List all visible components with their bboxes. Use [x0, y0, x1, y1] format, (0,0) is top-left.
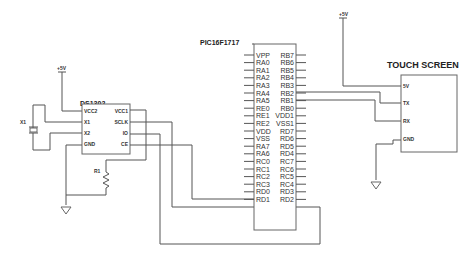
- rtc-pin-vcc1: VCC1: [115, 108, 129, 114]
- mcu-pin-rb5: RB5: [280, 67, 294, 74]
- rtc-pin-x2: X2: [84, 130, 90, 136]
- mcu-pin-vdd1: VDD1: [275, 112, 294, 119]
- rtc-pin-sclk: SCLK: [114, 119, 128, 125]
- rtc-pin-vcc2: VCC2: [84, 108, 98, 114]
- crystal-x1: X1: [20, 105, 82, 150]
- rtc-pin-gnd: GND: [84, 141, 96, 147]
- wire-tx: [296, 92, 401, 103]
- mcu-pin-vss1: VSS1: [276, 120, 294, 127]
- mcu-pin-rb3: RB3: [280, 82, 294, 89]
- mcu-pin-rd4: RD4: [280, 150, 294, 157]
- touch-ground: [371, 140, 401, 189]
- mcu-pin-vss: VSS: [256, 135, 270, 142]
- pic-chip: PIC16F1717 VPPRA0RA1RA2RA3RA4RA5RE0RE1RE…: [200, 39, 306, 230]
- schematic: +5V DS1302 VCC2 X1 X2 GND VCC1 SCLK IO C…: [0, 0, 474, 258]
- ds1302-chip: DS1302 VCC2 X1 X2 GND VCC1 SCLK IO CE: [80, 100, 130, 154]
- mcu-pin-rb0: RB0: [280, 105, 294, 112]
- mcu-pin-rb4: RB4: [280, 74, 294, 81]
- touch-pin-tx: TX: [403, 100, 410, 106]
- mcu-pin-rd2: RD2: [280, 196, 294, 203]
- mcu-pin-ra3: RA3: [256, 82, 270, 89]
- power-label-touch: +5V: [339, 11, 349, 17]
- rtc-pin-x1: X1: [84, 119, 90, 125]
- mcu-pin-re0: RE0: [256, 105, 270, 112]
- pic-left-pins: VPPRA0RA1RA2RA3RA4RA5RE0RE1RE2VDDVSSRA7R…: [244, 52, 271, 203]
- mcu-pin-vdd: VDD: [256, 128, 271, 135]
- touch-screen-module: TOUCH SCREEN 5V TX RX GND: [387, 60, 459, 152]
- mcu-pin-ra7: RA7: [256, 143, 270, 150]
- mcu-pin-rd1: RD1: [256, 196, 270, 203]
- mcu-pin-rb6: RB6: [280, 59, 294, 66]
- mcu-pin-rc4: RC4: [280, 181, 294, 188]
- mcu-pin-ra0: RA0: [256, 59, 270, 66]
- power-label-rtc: +5V: [57, 65, 67, 71]
- mcu-pin-rb7: RB7: [280, 52, 294, 59]
- mcu-pin-rc0: RC0: [256, 158, 270, 165]
- mcu-pin-rd3: RD3: [280, 188, 294, 195]
- mcu-pin-rc2: RC2: [256, 173, 270, 180]
- mcu-pin-vpp: VPP: [256, 52, 270, 59]
- power-rail-rtc: +5V: [57, 65, 82, 111]
- mcu-pin-rd0: RD0: [256, 188, 270, 195]
- resistor-label: R1: [94, 168, 101, 174]
- mcu-pin-re1: RE1: [256, 112, 270, 119]
- touch-pin-gnd: GND: [403, 136, 415, 142]
- mcu-pin-rc5: RC5: [280, 173, 294, 180]
- rtc-pin-ce: CE: [121, 141, 129, 147]
- mcu-pin-re2: RE2: [256, 120, 270, 127]
- mcu-pin-rd6: RD6: [280, 135, 294, 142]
- mcu-pin-rc1: RC1: [256, 166, 270, 173]
- mcu-pin-rc3: RC3: [256, 181, 270, 188]
- mcu-pin-ra5: RA5: [256, 97, 270, 104]
- mcu-pin-ra4: RA4: [256, 90, 270, 97]
- mcu-pin-rb1: RB1: [280, 97, 294, 104]
- crystal-label: X1: [20, 119, 26, 125]
- mcu-pin-rc7: RC7: [280, 158, 294, 165]
- mcu-pin-rd5: RD5: [280, 143, 294, 150]
- rtc-ground: [61, 145, 106, 214]
- pic-right-pins: RB7RB6RB5RB4RB3RB2RB1RB0VDD1VSS1RD7RD6RD…: [275, 52, 306, 203]
- mcu-pin-rd7: RD7: [280, 128, 294, 135]
- mcu-name: PIC16F1717: [200, 39, 239, 46]
- mcu-pin-ra6: RA6: [256, 150, 270, 157]
- touch-pin-5v: 5V: [403, 83, 410, 89]
- touch-pin-rx: RX: [403, 118, 411, 124]
- mcu-pin-ra1: RA1: [256, 67, 270, 74]
- wire-ce: [130, 145, 254, 199]
- touch-power: +5V: [339, 11, 401, 86]
- rtc-pin-io: IO: [123, 130, 128, 136]
- mcu-pin-ra2: RA2: [256, 74, 270, 81]
- mcu-pin-rc6: RC6: [280, 166, 294, 173]
- touch-screen-title: TOUCH SCREEN: [387, 60, 459, 70]
- mcu-pin-rb2: RB2: [280, 90, 294, 97]
